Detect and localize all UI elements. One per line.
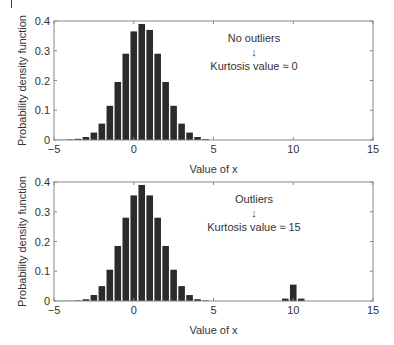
x-tick-label: 0 (131, 143, 137, 155)
histogram-bar (99, 286, 106, 301)
histogram-bar (162, 82, 169, 140)
plot-frame (54, 182, 373, 301)
arrow-down-icon: ↓ (251, 207, 257, 219)
y-tick-label: 0.2 (35, 75, 50, 87)
histogram-bar (186, 295, 193, 301)
y-tick-label: 0 (44, 295, 50, 307)
histogram-bar (154, 218, 161, 301)
histogram-bar (154, 54, 161, 140)
x-tick-label: 10 (287, 143, 299, 155)
x-tick-label: 5 (210, 304, 216, 316)
x-tick-label: 15 (367, 143, 379, 155)
histogram-bar (91, 133, 98, 140)
x-tick-label: 10 (287, 304, 299, 316)
histogram-bar (99, 124, 106, 140)
histogram-bar (178, 286, 185, 301)
chart-panel-1: −505101500.10.20.30.4Value of xProbabili… (16, 15, 379, 175)
figure: −505101500.10.20.30.4Value of xProbabili… (0, 0, 394, 345)
histogram-bar (115, 82, 122, 140)
x-tick-label: 15 (367, 304, 379, 316)
histogram-bar (146, 30, 153, 140)
y-tick-label: 0 (44, 134, 50, 146)
histogram-bar (138, 24, 145, 140)
y-tick-label: 0.1 (35, 104, 50, 116)
histogram-bar (122, 218, 129, 301)
histogram-bar (107, 106, 114, 140)
y-tick-label: 0.3 (35, 206, 50, 218)
histogram-bar (170, 270, 177, 301)
x-tick-label: 5 (210, 143, 216, 155)
histogram-bar (107, 270, 114, 301)
chart-panel-2: −505101500.10.20.30.4Value of xProbabili… (16, 176, 379, 336)
annotation-title: Outliers (235, 193, 273, 205)
histogram-bar (178, 124, 185, 140)
y-tick-label: 0.2 (35, 236, 50, 248)
annotation-kurtosis: Kurtosis value ≈ 0 (210, 60, 297, 72)
arrow-down-icon: ↓ (251, 46, 257, 58)
y-tick-label: 0.3 (35, 45, 50, 57)
histogram-bar (186, 133, 193, 140)
x-axis-label: Value of x (189, 163, 238, 175)
y-tick-label: 0.4 (35, 15, 50, 27)
histogram-bar (146, 195, 153, 301)
plot-frame (54, 21, 373, 140)
histogram-bar (122, 54, 129, 140)
y-tick-label: 0.1 (35, 265, 50, 277)
histogram-bar (115, 246, 122, 301)
histogram-bar (130, 31, 137, 140)
histogram-bar (170, 106, 177, 140)
x-tick-label: 0 (131, 304, 137, 316)
histogram-bar (91, 295, 98, 301)
x-axis-label: Value of x (189, 324, 238, 336)
histogram-bar (130, 195, 137, 301)
annotation-title: No outliers (228, 32, 281, 44)
annotation-kurtosis: Kurtosis value ≈ 15 (207, 221, 300, 233)
y-axis-label: Probability density function (16, 176, 28, 307)
y-axis-label: Probability density function (16, 15, 28, 146)
histogram-bar (138, 185, 145, 301)
histogram-bar (162, 246, 169, 301)
y-tick-label: 0.4 (35, 176, 50, 188)
